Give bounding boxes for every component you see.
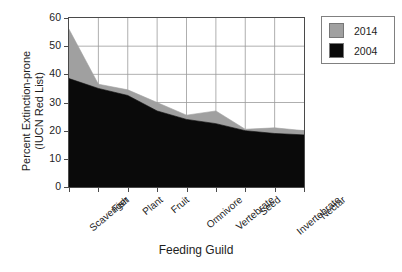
x-tick-mark	[304, 188, 305, 192]
legend-swatch-2004	[329, 43, 344, 58]
chart-legend: 2014 2004	[321, 16, 395, 64]
y-tick-label: 10	[39, 152, 61, 164]
x-tick-mark	[275, 188, 276, 192]
plot-area	[68, 17, 305, 188]
x-tick-mark	[216, 188, 217, 192]
x-tick-mark	[245, 188, 246, 192]
y-tick-label: 30	[39, 96, 61, 108]
legend-swatch-2014	[329, 23, 344, 38]
x-tick-label: Plant	[140, 194, 165, 217]
legend-item-2004: 2004	[329, 43, 377, 58]
chart-figure: Percent Extinction-prone (IUCN Red List)…	[0, 0, 402, 272]
x-tick-label: Fruit	[169, 194, 191, 215]
x-axis-title: Feeding Guild	[96, 243, 296, 257]
legend-label-2014: 2014	[354, 25, 377, 37]
y-tick-label: 20	[39, 124, 61, 136]
x-tick-mark	[187, 188, 188, 192]
x-tick-label: Seed	[258, 194, 283, 217]
y-tick-label: 40	[39, 67, 61, 79]
x-tick-mark	[98, 188, 99, 192]
legend-item-2014: 2014	[329, 23, 377, 38]
legend-label-2004: 2004	[354, 45, 377, 57]
y-tick-label: 60	[39, 11, 61, 23]
x-tick-mark	[157, 188, 158, 192]
y-axis-title-line1: Percent Extinction-prone	[20, 51, 32, 171]
x-tick-mark	[128, 188, 129, 192]
y-tick-label: 50	[39, 39, 61, 51]
y-tick-label: 0	[39, 180, 61, 192]
x-tick-mark	[69, 188, 70, 192]
area-chart-svg	[69, 18, 304, 187]
x-tick-label: Fish	[110, 194, 132, 215]
